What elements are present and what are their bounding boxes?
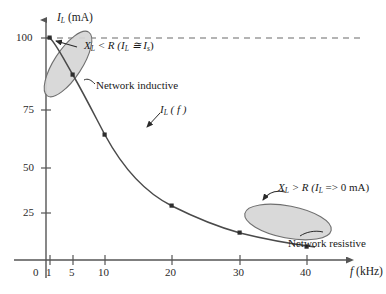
x-axis-title-unit: (kHz) — [356, 265, 383, 277]
inductive-math-a-sub: L — [91, 44, 95, 53]
y-tick-label-75: 75 — [23, 104, 34, 115]
x-tick-label-30: 30 — [233, 267, 244, 278]
curve-label: IL ( f ) — [160, 104, 186, 116]
inductive-region-ellipse — [36, 25, 101, 104]
y-axis-title-sub: L — [61, 16, 65, 25]
inductive-math-a: X — [84, 39, 91, 51]
inductive-math-b: < R (I — [98, 39, 125, 51]
x-tick-label-10: 10 — [98, 267, 109, 278]
y-axis-title: IL (mA) — [57, 12, 93, 24]
resistive-region-caption: Network resistive — [288, 238, 366, 249]
x-tick-label-1: 1 — [46, 267, 52, 278]
resistive-math-annotation: XL > R (IL => 0 mA) — [278, 182, 369, 194]
curve-label-arg: ( f ) — [171, 103, 187, 115]
y-tick-label-100: 100 — [16, 32, 33, 43]
inductive-math-d: ) — [150, 39, 154, 51]
inductive-math-c: ≅ I — [132, 39, 147, 51]
x-tick-label-0: 0 — [33, 267, 39, 278]
inductive-region-caption: Network inductive — [96, 80, 178, 91]
resistive-math-a-sub: L — [285, 186, 289, 195]
x-axis-title: f (kHz) — [350, 266, 383, 278]
chart-canvas — [0, 0, 386, 294]
chart-figure: IL (mA) f (kHz) 100 75 50 25 0 1 5 10 20… — [0, 0, 386, 294]
x-axis-title-var: f — [350, 265, 353, 277]
y-tick-label-50: 50 — [23, 162, 34, 173]
inductive-caption-leader — [84, 79, 95, 84]
x-tick-label-5: 5 — [69, 267, 75, 278]
resistive-math-a: X — [278, 181, 285, 193]
y-axis-title-unit: (mA) — [68, 11, 93, 23]
curve-label-leader — [147, 113, 160, 127]
x-tick-label-20: 20 — [165, 267, 176, 278]
inductive-math-b-sub: L — [125, 44, 129, 53]
inductive-math-annotation: XL < R (IL ≅ Is) — [84, 40, 154, 52]
resistive-math-c: => 0 mA) — [326, 181, 370, 193]
y-tick-label-25: 25 — [23, 207, 34, 218]
resistive-math-b-sub: L — [319, 186, 323, 195]
x-tick-label-40: 40 — [300, 267, 311, 278]
resistive-math-b: > R (I — [292, 181, 319, 193]
curve-label-sub: L — [164, 108, 168, 117]
